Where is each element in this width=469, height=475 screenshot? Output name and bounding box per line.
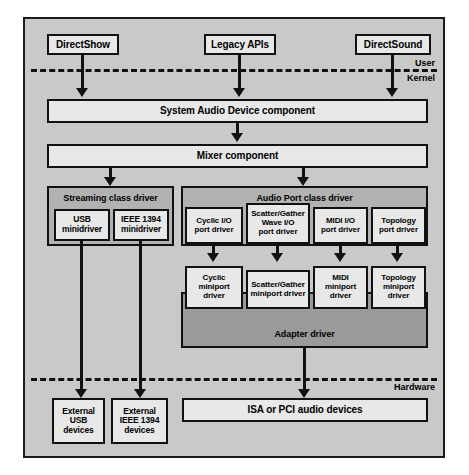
arrow-scatter-gather-head xyxy=(271,253,283,262)
user-kernel-boundary-line xyxy=(31,69,437,72)
block-scatter-gather-wave-port-driver: Scatter/Gather Wave I/O port driver xyxy=(246,203,310,244)
block-scatter-gather-miniport-driver: Scatter/Gather miniport driver xyxy=(246,270,310,309)
block-isa-pci-audio-devices: ISA or PCI audio devices xyxy=(182,398,428,422)
line-ieee1394-to-hardware xyxy=(139,241,142,378)
block-topology-miniport-driver: Topology miniport driver xyxy=(371,266,426,309)
block-directshow: DirectShow xyxy=(47,34,119,55)
arrow-adapter-to-hardware-shaft xyxy=(303,348,306,392)
kernel-hardware-boundary-line xyxy=(31,378,437,381)
arrow-directshow-shaft xyxy=(81,55,84,90)
arrow-legacy-shaft xyxy=(238,55,241,90)
arrow-mixer-to-streaming-head xyxy=(104,177,116,186)
hardware-label: Hardware xyxy=(335,382,435,392)
block-legacy-apis: Legacy APIs xyxy=(204,34,276,55)
audio-architecture-diagram: DirectShow Legacy APIs DirectSound User … xyxy=(0,0,469,475)
arrow-cyclic-head xyxy=(207,253,219,262)
arrow-usb-hw-head xyxy=(75,389,87,398)
block-system-audio-device: System Audio Device component xyxy=(47,99,428,123)
arrow-topology-head xyxy=(391,253,403,262)
arrow-adapter-to-hardware-head xyxy=(298,389,310,398)
block-midi-miniport-driver: MIDI miniport driver xyxy=(313,266,368,309)
line-usb-to-hardware xyxy=(80,241,83,378)
block-mixer: Mixer component xyxy=(47,144,428,168)
block-external-ieee1394-devices: External IEEE 1394 devices xyxy=(111,398,168,444)
block-midi-port-driver: MIDI I/O port driver xyxy=(313,207,368,244)
arrow-ieee1394-hw-head xyxy=(134,389,146,398)
arrow-directshow-head xyxy=(76,88,88,97)
arrow-directsound-head xyxy=(386,88,398,97)
block-cyclic-port-driver: Cyclic I/O port driver xyxy=(185,207,243,244)
block-external-usb-devices: External USB devices xyxy=(52,398,105,444)
kernel-label: Kernel xyxy=(345,73,435,83)
block-cyclic-miniport-driver: Cyclic miniport driver xyxy=(185,266,243,309)
arrow-midi-head xyxy=(334,253,346,262)
block-usb-minidriver: USB minidriver xyxy=(54,209,110,241)
block-ieee1394-minidriver: IEEE 1394 minidriver xyxy=(113,209,169,241)
block-directsound: DirectSound xyxy=(355,34,431,55)
arrow-legacy-head xyxy=(233,88,245,97)
user-label: User xyxy=(345,58,435,68)
arrow-mixer-to-portclass-head xyxy=(297,177,309,186)
block-topology-port-driver: Topology port driver xyxy=(371,207,426,244)
arrow-sad-to-mixer-head xyxy=(231,133,243,142)
